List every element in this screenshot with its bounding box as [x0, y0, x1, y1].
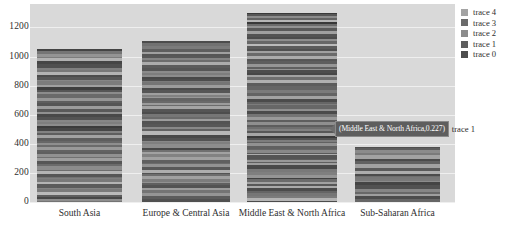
legend-item[interactable]: trace 4	[461, 7, 519, 18]
legend: trace 4trace 3trace 2trace 1trace 0	[461, 7, 519, 60]
legend-item-label: trace 4	[473, 8, 496, 17]
x-axis-tick-label: Sub-Saharan Africa	[360, 209, 435, 219]
legend-item-label: trace 0	[473, 50, 496, 59]
legend-item[interactable]: trace 2	[461, 28, 519, 39]
y-axis-tick-label: 1200	[1, 22, 29, 32]
legend-item-label: trace 2	[473, 29, 496, 38]
legend-item-label: trace 3	[473, 19, 496, 28]
bar[interactable]	[355, 147, 440, 202]
legend-swatch-icon	[461, 51, 468, 58]
bar[interactable]	[37, 49, 122, 202]
legend-swatch-icon	[461, 19, 468, 26]
plot-area	[30, 4, 455, 202]
x-axis-tick-label: Europe & Central Asia	[143, 209, 230, 219]
legend-swatch-icon	[461, 30, 468, 37]
chart-root: 020040060080010001200 South AsiaEurope &…	[0, 0, 519, 228]
legend-item[interactable]: trace 1	[461, 39, 519, 50]
y-axis-tick-label: 0	[1, 197, 29, 207]
legend-item[interactable]: trace 0	[461, 49, 519, 60]
bar-segment	[142, 199, 230, 202]
legend-item-label: trace 1	[473, 40, 496, 49]
legend-item[interactable]: trace 3	[461, 18, 519, 29]
gridline	[30, 202, 455, 203]
y-axis-tick-label: 400	[1, 139, 29, 149]
y-axis-tick-label: 800	[1, 81, 29, 91]
y-axis-tick-label: 1000	[1, 52, 29, 62]
y-axis-tick-label: 200	[1, 168, 29, 178]
y-axis-tick-label: 600	[1, 110, 29, 120]
y-axis-ticks: 020040060080010001200	[0, 0, 29, 228]
bar[interactable]	[247, 13, 337, 202]
bar[interactable]	[142, 41, 230, 202]
bar-segment	[247, 201, 337, 202]
x-axis-tick-label: Middle East & North Africa	[239, 209, 346, 219]
hover-tooltip: (Middle East & North Africa,0.227) trace…	[330, 122, 475, 136]
gridline	[30, 27, 455, 28]
bar-segment	[37, 201, 122, 202]
tooltip-trace-label: trace 1	[452, 124, 475, 134]
legend-swatch-icon	[461, 9, 468, 16]
legend-swatch-icon	[461, 41, 468, 48]
x-axis-tick-label: South Asia	[59, 209, 100, 219]
tooltip-text: (Middle East & North Africa,0.227)	[335, 121, 449, 136]
